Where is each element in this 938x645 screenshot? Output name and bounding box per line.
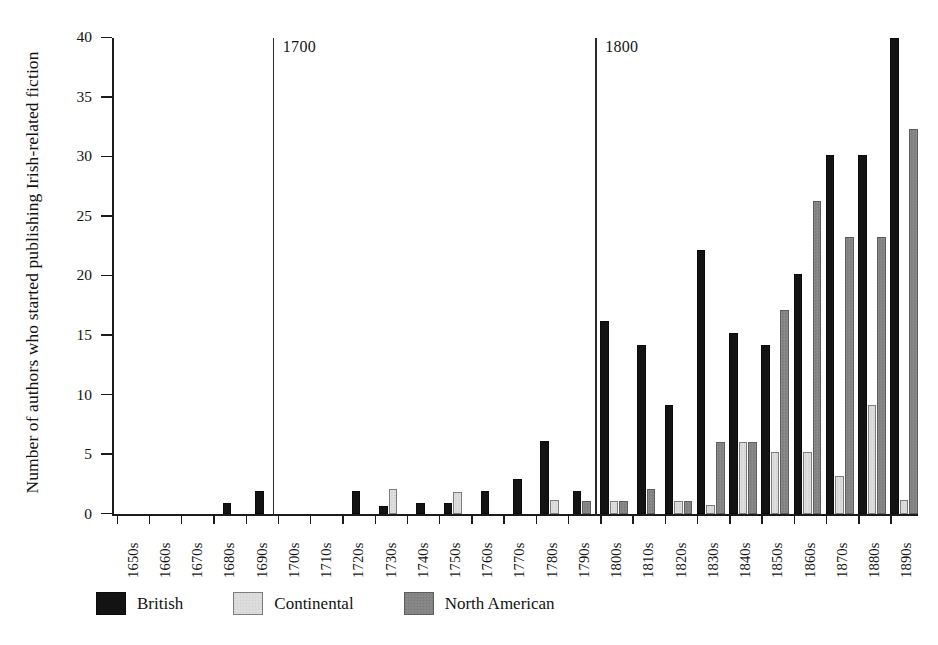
x-axis-label-1860s: 1860s	[802, 516, 819, 578]
legend-swatch-continental	[233, 592, 263, 615]
bar-1800s-continental	[610, 501, 619, 514]
y-axis-tick: 5	[101, 453, 112, 455]
bar-1870s-continental	[835, 476, 844, 514]
bar-1840s-continental	[739, 442, 748, 515]
x-axis-label-1730s: 1730s	[383, 516, 400, 578]
y-axis-tick-label: 25	[77, 207, 93, 225]
year-rule-1700: 1700	[273, 38, 275, 516]
bar-1880s-northamerican	[877, 237, 886, 515]
bar-1800s-northamerican	[619, 501, 628, 514]
y-axis-tick-label: 15	[77, 326, 93, 344]
y-axis-line	[112, 38, 114, 516]
legend-item-northamerican: North American	[404, 592, 555, 615]
bar-1850s-british	[761, 345, 770, 514]
bar-1810s-british	[637, 345, 646, 514]
bar-1690s-british	[255, 491, 264, 515]
bar-1890s-british	[890, 38, 899, 514]
chart-legend: BritishContinentalNorth American	[96, 592, 555, 615]
bar-1770s-british	[513, 479, 522, 515]
bar-1810s-northamerican	[647, 489, 656, 514]
x-axis-label-1760s: 1760s	[479, 516, 496, 578]
bar-1730s-british	[379, 506, 388, 514]
legend-swatch-northamerican	[404, 592, 434, 615]
y-axis-tick: 10	[101, 394, 112, 396]
y-axis-title: Number of authors who started publishing…	[22, 23, 43, 523]
bar-1850s-continental	[771, 452, 780, 514]
bar-1780s-british	[540, 441, 549, 515]
x-axis-label-1700s: 1700s	[286, 516, 303, 578]
y-axis-tick-label: 0	[84, 504, 92, 522]
x-axis-label-1890s: 1890s	[898, 516, 915, 578]
bar-1890s-northamerican	[909, 129, 918, 515]
legend-swatch-british	[96, 592, 126, 615]
year-rule-1800: 1800	[595, 38, 597, 516]
bar-1820s-continental	[674, 501, 683, 514]
bar-1820s-northamerican	[684, 501, 693, 514]
y-axis-tick: 15	[101, 334, 112, 336]
y-axis-tick: 20	[101, 275, 112, 277]
x-axis-label-1720s: 1720s	[350, 516, 367, 578]
y-axis-tick: 25	[101, 215, 112, 217]
bar-1870s-northamerican	[845, 237, 854, 515]
x-axis-labels: 1650s1660s1670s1680s1690s1700s1710s1720s…	[112, 520, 918, 582]
legend-item-continental: Continental	[233, 592, 353, 615]
bar-1880s-continental	[868, 405, 877, 515]
x-axis-label-1820s: 1820s	[673, 516, 690, 578]
bar-1740s-british	[416, 503, 425, 515]
x-axis-label-1800s: 1800s	[608, 516, 625, 578]
y-axis-tick-label: 5	[84, 445, 92, 463]
bar-1730s-continental	[389, 489, 398, 514]
bar-1680s-british	[223, 503, 232, 515]
bar-1880s-british	[858, 155, 867, 515]
x-axis-label-1680s: 1680s	[221, 516, 238, 578]
x-axis-label-1650s: 1650s	[125, 516, 142, 578]
bar-1860s-continental	[803, 452, 812, 514]
plot-area: 0510152025303540 17001800	[112, 38, 918, 516]
x-axis-label-1660s: 1660s	[157, 516, 174, 578]
bar-1840s-northamerican	[748, 442, 757, 515]
bar-1840s-british	[729, 333, 738, 514]
x-axis-label-1770s: 1770s	[511, 516, 528, 578]
x-axis-label-1870s: 1870s	[834, 516, 851, 578]
bar-1790s-northamerican	[582, 501, 591, 514]
x-axis-label-1740s: 1740s	[415, 516, 432, 578]
y-axis-tick: 0	[101, 513, 112, 515]
bar-1860s-northamerican	[813, 201, 822, 514]
y-axis-tick-label: 10	[77, 385, 93, 403]
bar-1890s-continental	[900, 500, 909, 514]
bar-1830s-british	[697, 250, 706, 514]
y-axis-tick-label: 30	[77, 147, 93, 165]
bar-1870s-british	[826, 155, 835, 515]
legend-label-british: British	[137, 594, 183, 614]
x-axis-label-1690s: 1690s	[254, 516, 271, 578]
bar-1820s-british	[665, 405, 674, 515]
x-axis-label-1840s: 1840s	[737, 516, 754, 578]
x-axis-label-1810s: 1810s	[640, 516, 657, 578]
x-axis-label-1790s: 1790s	[576, 516, 593, 578]
y-axis-tick-label: 35	[77, 87, 93, 105]
y-axis-tick-label: 40	[77, 28, 93, 46]
legend-label-northamerican: North American	[445, 594, 555, 614]
x-axis-label-1830s: 1830s	[705, 516, 722, 578]
chart-figure: Number of authors who started publishing…	[0, 0, 938, 645]
x-axis-label-1850s: 1850s	[769, 516, 786, 578]
year-rule-label: 1700	[283, 38, 316, 56]
bar-1800s-british	[600, 321, 609, 514]
legend-item-british: British	[96, 592, 183, 615]
x-axis-label-1670s: 1670s	[189, 516, 206, 578]
bar-1780s-continental	[550, 500, 559, 514]
y-axis-tick: 40	[101, 37, 112, 39]
bar-1790s-british	[573, 491, 582, 515]
bar-1720s-british	[352, 491, 361, 515]
x-axis-label-1710s: 1710s	[318, 516, 335, 578]
x-axis-label-1750s: 1750s	[447, 516, 464, 578]
year-rule-label: 1800	[605, 38, 638, 56]
bar-1850s-northamerican	[780, 310, 789, 515]
bar-1860s-british	[794, 274, 803, 515]
y-axis-tick-label: 20	[77, 266, 93, 284]
y-axis-tick: 30	[101, 156, 112, 158]
x-axis-label-1880s: 1880s	[866, 516, 883, 578]
x-axis-label-1780s: 1780s	[544, 516, 561, 578]
y-axis-tick: 35	[101, 96, 112, 98]
bar-1830s-continental	[706, 505, 715, 515]
